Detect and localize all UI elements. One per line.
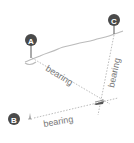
marker-a: A <box>25 34 37 58</box>
trail-line <box>25 31 123 62</box>
position-icon <box>94 100 104 105</box>
marker-b: B <box>8 113 20 125</box>
tower-icon <box>28 113 32 119</box>
trail-start <box>25 62 36 64</box>
bearing-label-b: bearing <box>43 114 74 129</box>
diagram-canvas: A C B bearing bearing bearing <box>0 0 134 143</box>
marker-c: C <box>108 14 120 34</box>
bearing-label-a: bearing <box>44 63 75 87</box>
marker-a-label: A <box>28 37 34 46</box>
marker-c-label: C <box>111 17 117 26</box>
bearing-line-b <box>34 98 118 118</box>
triangulation-diagram: A C B bearing bearing bearing <box>0 0 134 143</box>
marker-b-label: B <box>11 116 17 125</box>
